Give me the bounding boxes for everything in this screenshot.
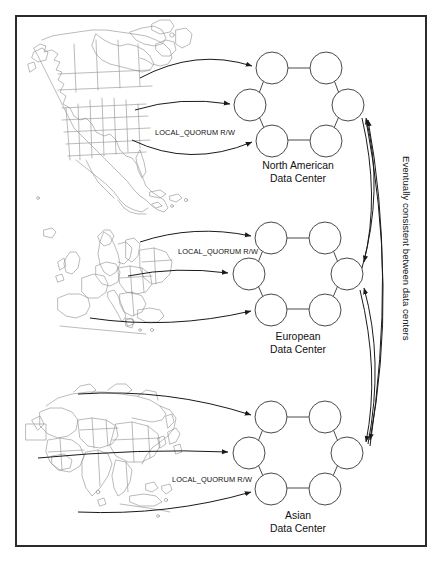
dc-name-line1: European <box>248 331 348 344</box>
client-arrows-asia <box>38 393 251 513</box>
ring-europe <box>233 222 363 326</box>
ring-north-america <box>234 52 364 157</box>
datacenter-label-north-america: North American Data Center <box>248 160 348 185</box>
diagram-canvas: LOCAL_QUORUM R/W North American Data Cen… <box>0 0 445 566</box>
dc-name-line2: Data Center <box>248 344 348 357</box>
ring-asia <box>233 401 363 505</box>
local-quorum-label-europe: LOCAL_QUORUM R/W <box>178 247 258 256</box>
dc-name-line1: Asian <box>248 510 348 523</box>
dc-name-line2: Data Center <box>248 523 348 536</box>
dc-name-line2: Data Center <box>248 173 348 186</box>
datacenter-label-asia: Asian Data Center <box>248 510 348 535</box>
replication-arrows <box>360 118 383 446</box>
client-arrows-europe <box>90 231 251 322</box>
dc-name-line1: North American <box>248 160 348 173</box>
local-quorum-label-north-america: LOCAL_QUORUM R/W <box>155 128 235 137</box>
replication-consistency-label: Eventually consistent between data cente… <box>401 156 412 341</box>
datacenter-label-europe: European Data Center <box>248 331 348 356</box>
local-quorum-label-asia: LOCAL_QUORUM R/W <box>172 475 252 484</box>
